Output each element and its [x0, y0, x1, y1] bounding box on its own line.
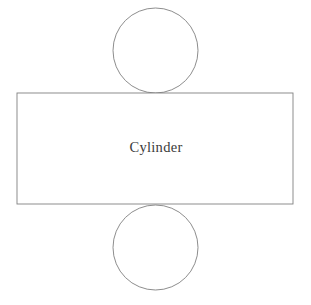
diagram-svg-canvas: Cylinder: [0, 0, 311, 305]
bottom-base-circle: [113, 205, 198, 290]
cylinder-label: Cylinder: [129, 139, 182, 155]
top-base-circle: [113, 8, 198, 93]
cylinder-net-diagram: Cylinder: [0, 0, 311, 305]
